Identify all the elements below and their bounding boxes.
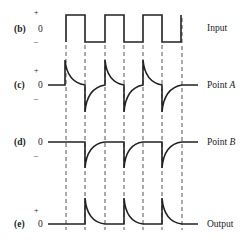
panel-e-tag: (e) <box>14 219 25 229</box>
panel-b-minus: – <box>34 37 38 47</box>
output-waveform <box>48 198 198 224</box>
panel-b-plus: + <box>34 8 39 18</box>
panel-c-minus: – <box>34 94 38 104</box>
panel-b-tag: (b) <box>14 24 26 34</box>
point-b-label: Point B <box>207 137 235 147</box>
input-square-wave <box>66 15 181 42</box>
panel-d-minus: – <box>34 151 38 161</box>
panel-d-zero: 0 <box>38 137 43 147</box>
point-a-label: Point A <box>207 80 235 90</box>
point-b-waveform <box>48 142 198 168</box>
panel-b-zero: 0 <box>38 24 43 34</box>
input-label: Input <box>207 23 227 33</box>
panel-c-tag: (c) <box>14 80 25 90</box>
output-label: Output <box>207 219 233 229</box>
panel-d-tag: (d) <box>14 137 26 147</box>
panel-e-zero: 0 <box>38 219 43 229</box>
panel-e-plus: + <box>34 206 39 216</box>
panel-c-plus: + <box>34 66 39 76</box>
point-a-waveform <box>48 60 198 112</box>
panel-c-zero: 0 <box>38 80 43 90</box>
